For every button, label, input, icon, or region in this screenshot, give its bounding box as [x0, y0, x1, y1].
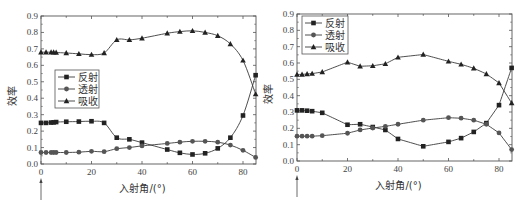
series-line	[297, 118, 512, 150]
series-line	[41, 141, 256, 157]
circle-marker	[102, 149, 107, 154]
circle-marker	[165, 141, 170, 146]
y-tick-label: 0.3	[27, 110, 39, 120]
x-tick-label: 0	[295, 164, 300, 174]
chart-panel-1: 0.00.10.20.30.40.50.60.70.80.9020406080效…	[6, 11, 258, 200]
circle-marker	[228, 143, 233, 148]
circle-marker	[241, 148, 246, 153]
arrow-head-icon	[295, 175, 298, 180]
square-marker	[64, 119, 69, 124]
circle-marker	[396, 122, 401, 127]
circle-marker	[114, 146, 119, 151]
y-tick-label: 0.4	[27, 93, 39, 103]
y-tick-label: 0.8	[283, 25, 295, 35]
legend-label: 透射	[78, 84, 98, 95]
square-marker	[459, 136, 464, 141]
legend-label: 反射	[78, 72, 98, 83]
circle-marker	[320, 133, 325, 138]
square-marker	[102, 121, 107, 126]
x-tick-label: 20	[87, 167, 97, 177]
legend: 反射透射吸收	[55, 70, 99, 108]
circle-marker	[484, 122, 489, 127]
series-circle	[39, 139, 258, 160]
circle-marker	[471, 118, 476, 123]
circle-marker	[253, 155, 258, 160]
circle-marker	[421, 118, 426, 123]
circle-marker	[127, 145, 132, 150]
y-tick-label: 0.3	[283, 107, 295, 117]
square-marker	[497, 103, 502, 108]
x-axis-label: 入射角/(°)	[119, 183, 165, 194]
square-marker	[509, 66, 514, 71]
square-marker	[228, 135, 233, 140]
circle-marker	[190, 139, 195, 144]
x-axis-label: 入射角/(°)	[375, 180, 421, 191]
circle-marker	[44, 150, 49, 155]
circle-marker	[358, 128, 363, 133]
y-axis-label: 效率	[262, 84, 274, 104]
y-tick-label: 0.8	[27, 27, 39, 37]
legend-label: 吸收	[325, 41, 345, 53]
square-marker	[345, 122, 350, 127]
square-marker	[471, 130, 476, 135]
circle-marker	[64, 150, 69, 155]
series-square	[295, 66, 514, 149]
square-marker	[421, 144, 426, 149]
series-circle	[295, 115, 514, 152]
circle-marker	[300, 134, 305, 139]
legend-label: 透射	[325, 30, 345, 41]
square-marker	[215, 146, 220, 151]
chart-panel-2: 0.00.10.20.30.40.50.60.70.80.9020406080效…	[262, 9, 514, 197]
series-line	[297, 55, 512, 104]
circle-marker	[140, 144, 145, 149]
square-marker	[253, 73, 258, 78]
y-tick-label: 0.0	[27, 159, 39, 169]
series-triangle	[294, 52, 514, 106]
circle-marker	[177, 140, 182, 145]
x-tick-label: 20	[343, 164, 353, 174]
y-tick-label: 0.9	[283, 9, 295, 19]
x-tick-label: 60	[188, 167, 198, 177]
square-marker	[305, 108, 310, 113]
triangle-marker	[509, 100, 515, 105]
square-marker	[300, 108, 305, 113]
series-line	[297, 68, 512, 146]
circle-marker	[509, 147, 514, 152]
square-marker	[44, 121, 49, 126]
circle-marker	[64, 87, 69, 92]
square-marker	[396, 137, 401, 142]
y-tick-label: 0.7	[283, 42, 295, 52]
y-tick-label: 0.0	[283, 156, 295, 166]
square-marker	[358, 122, 363, 127]
legend: 反射透射吸收	[302, 16, 348, 54]
circle-marker	[295, 134, 300, 139]
square-marker	[114, 135, 119, 140]
square-marker	[190, 152, 195, 157]
figure: 0.00.10.20.30.40.50.60.70.80.9020406080效…	[0, 0, 521, 202]
circle-marker	[310, 134, 315, 139]
square-marker	[311, 21, 316, 26]
triangle-marker	[253, 91, 259, 96]
square-marker	[446, 140, 451, 145]
circle-marker	[39, 150, 44, 155]
y-tick-label: 0.4	[283, 91, 295, 101]
circle-marker	[497, 131, 502, 136]
y-tick-label: 0.1	[27, 143, 38, 153]
arrow-head-icon	[39, 178, 42, 183]
y-tick-label: 0.2	[283, 123, 294, 133]
legend-label: 吸收	[78, 95, 98, 107]
y-tick-label: 0.2	[27, 126, 38, 136]
triangle-marker	[240, 58, 246, 63]
square-marker	[310, 109, 315, 114]
y-tick-label: 0.9	[27, 11, 39, 21]
circle-marker	[459, 116, 464, 121]
y-tick-label: 0.6	[283, 58, 295, 68]
square-marker	[77, 119, 82, 124]
square-marker	[39, 121, 44, 126]
circle-marker	[215, 140, 220, 145]
circle-marker	[203, 139, 208, 144]
triangle-marker	[345, 59, 351, 64]
circle-marker	[383, 124, 388, 129]
x-tick-label: 40	[138, 167, 148, 177]
triangle-marker	[383, 61, 389, 66]
